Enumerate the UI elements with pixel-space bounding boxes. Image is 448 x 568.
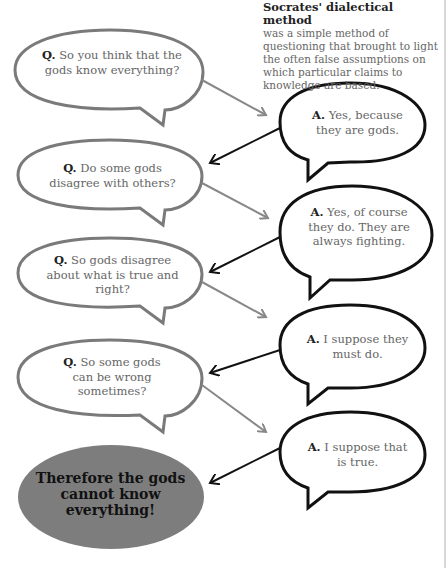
question-text: So gods disagree about what is true and … bbox=[46, 253, 178, 296]
question-2: Q. Do some gods disagree with others? bbox=[40, 161, 185, 190]
a-label: A. bbox=[308, 440, 321, 454]
a-label: A. bbox=[312, 108, 325, 122]
arrow-q4-to-a4 bbox=[202, 385, 266, 432]
answer-4: A. I suppose that is true. bbox=[305, 440, 410, 469]
intro-title: Socrates' dialectical method bbox=[263, 1, 443, 27]
question-text: So some gods can be wrong sometimes? bbox=[72, 355, 160, 398]
arrow-a1-to-q2 bbox=[210, 128, 280, 163]
answer-2: A. Yes, of course they do. They are alwa… bbox=[298, 205, 420, 249]
answer-text: Yes, because they are gods. bbox=[316, 108, 403, 137]
question-bubble-1 bbox=[15, 30, 203, 125]
q-label: Q. bbox=[54, 253, 67, 267]
question-1: Q. So you think that the gods know every… bbox=[42, 48, 182, 77]
arrow-a3-to-q4 bbox=[210, 350, 280, 373]
q-label: Q. bbox=[63, 355, 76, 369]
q-label: Q. bbox=[63, 161, 76, 175]
a-label: A. bbox=[307, 332, 320, 346]
question-text: So you think that the gods know everythi… bbox=[45, 48, 182, 77]
q-label: Q. bbox=[42, 48, 55, 62]
answer-text: I suppose that is true. bbox=[324, 440, 407, 469]
arrow-a2-to-q3 bbox=[210, 237, 280, 272]
question-4: Q. So some gods can be wrong sometimes? bbox=[52, 355, 172, 399]
conclusion-text: Therefore the gods cannot know everythin… bbox=[28, 470, 193, 518]
question-3: Q. So gods disagree about what is true a… bbox=[45, 253, 180, 297]
arrow-q2-to-a2 bbox=[202, 183, 268, 218]
intro-caption: Socrates' dialectical method was a simpl… bbox=[263, 1, 443, 92]
arrow-q3-to-a3 bbox=[202, 282, 266, 317]
answer-1: A. Yes, because they are gods. bbox=[300, 108, 415, 137]
answer-text: I suppose they must do. bbox=[323, 332, 408, 361]
a-label: A. bbox=[310, 205, 323, 219]
intro-body: was a simple method of questioning that … bbox=[263, 27, 438, 91]
answer-3: A. I suppose they must do. bbox=[305, 332, 410, 361]
answer-text: Yes, of course they do. They are always … bbox=[308, 205, 410, 248]
arrow-a4-to-conclusion bbox=[210, 448, 280, 483]
arrow-q1-to-a1 bbox=[202, 80, 266, 115]
